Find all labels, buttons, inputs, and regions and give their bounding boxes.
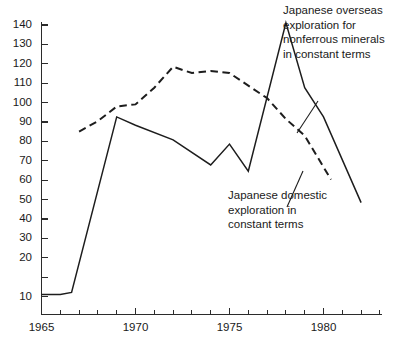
x-tick-label-1970: 1970	[114, 321, 158, 333]
y-tick-label-60: 60	[6, 173, 32, 185]
y-tick-label-140: 140	[6, 18, 32, 30]
y-tick-label-130: 130	[6, 37, 32, 49]
annotation-overseas: Japanese overseas exploration for nonfer…	[283, 3, 385, 61]
annotation-overseas-line-2: exploration for	[283, 18, 385, 33]
annotation-domestic-line-2: exploration in	[228, 203, 327, 218]
y-tick-label-70: 70	[6, 154, 32, 166]
chart-figure: 140 130 120 110 100 90 80 70 60 50 40 30…	[0, 0, 414, 348]
x-tick-label-1980: 1980	[302, 321, 346, 333]
y-tick-label-80: 80	[6, 134, 32, 146]
annotation-domestic: Japanese domestic exploration in constan…	[228, 188, 327, 232]
x-tick-label-1965: 1965	[20, 321, 64, 333]
y-tick-label-110: 110	[6, 76, 32, 88]
y-axis-ticks	[42, 25, 48, 297]
annotation-overseas-line-1: Japanese overseas	[283, 3, 385, 18]
series-line-overseas	[42, 23, 362, 295]
x-axis-ticks	[42, 308, 380, 315]
annotation-overseas-line-3: nonferrous minerals	[283, 32, 385, 47]
leader-line-overseas	[297, 101, 318, 133]
series-line-domestic	[79, 67, 331, 180]
annotation-domestic-line-1: Japanese domestic	[228, 188, 327, 203]
y-tick-label-120: 120	[6, 57, 32, 69]
annotation-domestic-line-3: constant terms	[228, 217, 327, 232]
annotation-overseas-line-4: in constant terms	[283, 47, 385, 62]
y-tick-label-30: 30	[6, 231, 32, 243]
y-tick-label-20: 20	[6, 251, 32, 263]
x-tick-label-1975: 1975	[208, 321, 252, 333]
y-tick-label-40: 40	[6, 212, 32, 224]
y-tick-label-10: 10	[6, 290, 32, 302]
y-tick-label-50: 50	[6, 193, 32, 205]
y-tick-label-90: 90	[6, 115, 32, 127]
y-tick-label-100: 100	[6, 96, 32, 108]
